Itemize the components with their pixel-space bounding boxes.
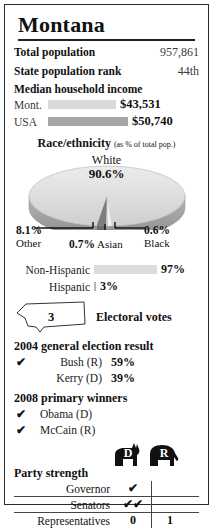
callout-asian: 0.7% Asian [69, 238, 123, 251]
party-row-representatives: Representatives 0 1 [14, 513, 199, 528]
electoral-votes-section: 3 Electoral votes [14, 300, 199, 334]
democrat-donkey-icon: D [110, 442, 146, 468]
hispanic-bar [94, 282, 96, 291]
candidate-name: McCain (R) [28, 424, 114, 436]
income-bar [48, 100, 116, 109]
electoral-votes-count: 3 [14, 300, 88, 334]
callout-percent: 0.7% [69, 238, 95, 250]
republican-letter: R [146, 446, 182, 461]
callout-black: 0.6% Black [144, 224, 170, 249]
income-bar [48, 117, 128, 126]
candidate-percent: 59% [111, 355, 135, 370]
race-heading-text: Race/ethnicity [38, 136, 111, 150]
republican-elephant-icon: R [146, 442, 182, 468]
montana-map-icon: 3 [14, 300, 88, 334]
pie-main-percent: 90.6% [5, 167, 208, 181]
stat-row-total-population: Total population 957,861 [14, 45, 199, 60]
pie-callouts: 8.1% Other 0.7% Asian 0.6% Black [5, 230, 208, 260]
winner-check-icon: ✔ [14, 423, 28, 438]
candidate-name: Kerry (D) [28, 372, 102, 384]
income-amount: $43,531 [120, 97, 161, 112]
pie-main-category: White [5, 154, 208, 167]
general-2004-heading: 2004 general election result [14, 339, 199, 354]
general-2004-row-kerry: Kerry (D) 39% [14, 371, 199, 386]
party-row-governor: Governor ✔ [14, 481, 199, 497]
hispanic-percent: 97% [161, 262, 185, 277]
income-row-label: Mont. [14, 99, 48, 111]
callout-percent: 8.1% [16, 224, 42, 236]
party-row-senators: Senators ✔✔ [14, 497, 199, 513]
winner-check-icon: ✔ [14, 355, 28, 370]
hispanic-bar [94, 265, 157, 274]
callout-label: Black [144, 237, 170, 249]
party-row-rep-value: 1 [152, 513, 188, 528]
party-strength-table: D R Party strength Governor ✔ [14, 442, 199, 528]
primary-2008-row-obama: ✔ Obama (D) [14, 407, 199, 422]
general-2004-row-bush: ✔ Bush (R) 59% [14, 355, 199, 370]
party-strength-heading: Party strength [14, 466, 110, 481]
winner-check-icon: ✔ [14, 407, 28, 422]
callout-label: Asian [97, 238, 123, 250]
page-title: Montana [18, 12, 199, 38]
stat-value: 957,861 [160, 45, 199, 60]
stat-label: State population rank [14, 65, 121, 77]
state-fact-card: Montana Total population 957,861 State p… [4, 4, 209, 505]
stat-row-population-rank: State population rank 44th [14, 64, 199, 79]
candidate-percent: 39% [111, 371, 135, 386]
primary-2008-heading: 2008 primary winners [14, 391, 199, 406]
hispanic-row-hispanic: Hispanic 3% [14, 279, 199, 294]
income-amount: $50,740 [132, 114, 173, 129]
party-row-label: Governor [14, 483, 115, 495]
pie-main-label: White 90.6% [5, 154, 208, 180]
party-row-label: Senators [14, 499, 115, 511]
race-heading-note: (as % of total pop.) [114, 140, 176, 149]
hispanic-row-non-hispanic: Non-Hispanic 97% [14, 262, 199, 277]
income-row-montana: Mont. $43,531 [14, 97, 199, 112]
income-row-usa: USA $50,740 [14, 114, 199, 129]
candidate-name: Bush (R) [28, 356, 102, 368]
race-pie-chart: White 90.6% [5, 152, 208, 230]
party-row-dem-value: ✔✔ [115, 497, 152, 512]
hispanic-percent: 3% [100, 279, 118, 294]
race-heading: Race/ethnicity (as % of total pop.) [14, 136, 199, 151]
party-row-dem-value: ✔ [115, 481, 152, 496]
primary-2008-row-mccain: ✔ McCain (R) [14, 423, 199, 438]
hispanic-row-label: Non-Hispanic [14, 264, 90, 276]
electoral-votes-label: Electoral votes [96, 310, 172, 325]
hispanic-row-label: Hispanic [14, 281, 90, 293]
title-underline [18, 39, 195, 41]
party-row-label: Representatives [14, 515, 115, 527]
party-row-dem-value: 0 [115, 513, 152, 528]
stat-label: Total population [14, 46, 95, 58]
income-row-label: USA [14, 116, 48, 128]
callout-other: 8.1% Other [16, 224, 42, 249]
candidate-name: Obama (D) [28, 408, 114, 420]
stat-value: 44th [178, 64, 199, 79]
democrat-letter: D [110, 446, 146, 461]
callout-label: Other [16, 237, 42, 249]
median-income-heading: Median household income [14, 83, 199, 95]
callout-percent: 0.6% [144, 224, 170, 236]
party-strength-title-row: Party strength [14, 466, 199, 481]
